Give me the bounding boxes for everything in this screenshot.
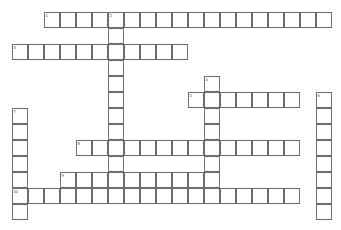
crossword-cell[interactable] (204, 92, 220, 108)
crossword-cell[interactable] (252, 12, 268, 28)
crossword-cell[interactable] (204, 12, 220, 28)
crossword-cell[interactable] (220, 140, 236, 156)
crossword-cell[interactable] (60, 188, 76, 204)
crossword-cell[interactable] (108, 156, 124, 172)
crossword-cell[interactable] (124, 172, 140, 188)
crossword-cell[interactable] (300, 12, 316, 28)
crossword-cell[interactable] (316, 108, 332, 124)
crossword-cell[interactable] (108, 28, 124, 44)
crossword-cell[interactable] (172, 188, 188, 204)
crossword-cell[interactable] (108, 44, 124, 60)
crossword-cell[interactable] (236, 92, 252, 108)
crossword-cell[interactable] (92, 140, 108, 156)
crossword-cell[interactable] (188, 140, 204, 156)
crossword-cell[interactable] (316, 172, 332, 188)
crossword-cell[interactable] (108, 140, 124, 156)
crossword-cell[interactable] (108, 92, 124, 108)
crossword-cell[interactable] (204, 172, 220, 188)
crossword-cell[interactable] (204, 140, 220, 156)
crossword-cell[interactable] (204, 188, 220, 204)
crossword-cell[interactable] (172, 140, 188, 156)
crossword-cell[interactable] (172, 44, 188, 60)
crossword-cell[interactable] (316, 204, 332, 220)
crossword-cell[interactable] (156, 12, 172, 28)
crossword-cell[interactable] (188, 12, 204, 28)
crossword-cell[interactable] (92, 44, 108, 60)
crossword-cell[interactable] (316, 188, 332, 204)
crossword-cell[interactable] (156, 44, 172, 60)
crossword-cell[interactable] (44, 44, 60, 60)
crossword-cell[interactable] (28, 44, 44, 60)
crossword-cell[interactable]: 4 (204, 76, 220, 92)
crossword-cell[interactable]: 5 (188, 92, 204, 108)
crossword-cell[interactable] (204, 108, 220, 124)
crossword-cell[interactable] (316, 156, 332, 172)
crossword-cell[interactable] (156, 188, 172, 204)
crossword-cell[interactable]: 8 (76, 140, 92, 156)
crossword-cell[interactable] (236, 188, 252, 204)
crossword-cell[interactable] (12, 156, 28, 172)
crossword-cell[interactable] (12, 172, 28, 188)
crossword-cell[interactable]: 6 (316, 92, 332, 108)
crossword-cell[interactable] (268, 92, 284, 108)
crossword-cell[interactable] (220, 188, 236, 204)
crossword-cell[interactable] (108, 172, 124, 188)
crossword-cell[interactable] (140, 188, 156, 204)
crossword-cell[interactable] (76, 12, 92, 28)
crossword-cell[interactable] (76, 188, 92, 204)
crossword-cell[interactable] (188, 188, 204, 204)
crossword-cell[interactable]: 3 (12, 44, 28, 60)
crossword-cell[interactable] (156, 140, 172, 156)
crossword-cell[interactable] (140, 140, 156, 156)
crossword-cell[interactable] (268, 12, 284, 28)
crossword-cell[interactable]: 7 (12, 108, 28, 124)
crossword-cell[interactable] (108, 124, 124, 140)
crossword-cell[interactable] (92, 188, 108, 204)
crossword-cell[interactable] (204, 124, 220, 140)
crossword-cell[interactable] (12, 140, 28, 156)
crossword-cell[interactable] (284, 188, 300, 204)
crossword-cell[interactable] (92, 12, 108, 28)
crossword-cell[interactable] (284, 12, 300, 28)
crossword-cell[interactable]: 2 (108, 12, 124, 28)
crossword-cell[interactable] (252, 140, 268, 156)
crossword-cell[interactable] (76, 172, 92, 188)
crossword-cell[interactable] (140, 44, 156, 60)
crossword-cell[interactable] (236, 12, 252, 28)
crossword-cell[interactable] (108, 76, 124, 92)
crossword-cell[interactable] (108, 108, 124, 124)
crossword-cell[interactable] (252, 92, 268, 108)
crossword-cell[interactable] (44, 188, 60, 204)
crossword-cell[interactable] (92, 172, 108, 188)
crossword-cell[interactable] (220, 12, 236, 28)
crossword-cell[interactable] (108, 60, 124, 76)
crossword-cell[interactable]: 1 (44, 12, 60, 28)
crossword-cell[interactable] (268, 140, 284, 156)
crossword-cell[interactable] (252, 188, 268, 204)
crossword-cell[interactable] (204, 156, 220, 172)
crossword-cell[interactable] (316, 124, 332, 140)
crossword-cell[interactable] (108, 188, 124, 204)
crossword-cell[interactable] (156, 172, 172, 188)
crossword-cell[interactable] (140, 12, 156, 28)
crossword-cell[interactable] (124, 188, 140, 204)
crossword-cell[interactable] (316, 140, 332, 156)
crossword-cell[interactable] (236, 140, 252, 156)
crossword-cell[interactable] (316, 12, 332, 28)
crossword-cell[interactable] (268, 188, 284, 204)
crossword-cell[interactable]: 9 (60, 172, 76, 188)
crossword-cell[interactable] (172, 172, 188, 188)
crossword-cell[interactable] (124, 44, 140, 60)
crossword-cell[interactable] (124, 12, 140, 28)
crossword-cell[interactable] (140, 172, 156, 188)
crossword-cell[interactable] (12, 204, 28, 220)
crossword-cell[interactable] (284, 140, 300, 156)
crossword-cell[interactable] (12, 124, 28, 140)
crossword-cell[interactable]: 10 (12, 188, 28, 204)
crossword-cell[interactable] (220, 92, 236, 108)
crossword-cell[interactable] (76, 44, 92, 60)
crossword-cell[interactable] (60, 44, 76, 60)
crossword-cell[interactable] (60, 12, 76, 28)
crossword-cell[interactable] (172, 12, 188, 28)
crossword-cell[interactable] (284, 92, 300, 108)
